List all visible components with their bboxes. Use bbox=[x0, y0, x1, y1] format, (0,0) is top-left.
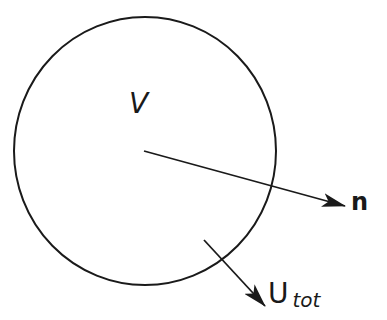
diagram-canvas bbox=[0, 0, 387, 320]
velocity-symbol: U bbox=[268, 277, 289, 310]
velocity-subscript: tot bbox=[293, 288, 321, 312]
volume-label: V bbox=[129, 90, 148, 118]
normal-vector-arrow bbox=[144, 151, 345, 206]
velocity-vector-label: Utot bbox=[268, 280, 320, 308]
normal-vector-label: n bbox=[351, 190, 368, 214]
